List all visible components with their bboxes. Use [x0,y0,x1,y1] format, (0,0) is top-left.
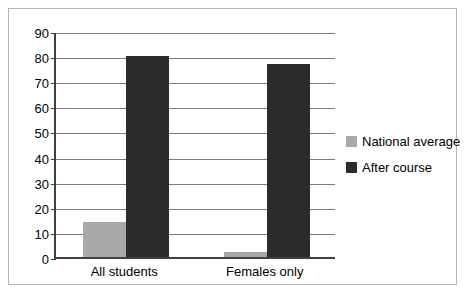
y-axis-tick-label: 80 [13,52,49,65]
x-axis-tick-label: All students [54,265,194,278]
legend-item[interactable]: National average [346,135,466,148]
legend-item-label: National average [362,135,460,148]
gridline [56,58,335,59]
y-axis-tick-label: 10 [13,227,49,240]
bar-after-course-females-only [267,64,310,257]
y-axis-tick-label: 20 [13,202,49,215]
y-axis-tick [51,209,56,210]
legend-item[interactable]: After course [346,161,466,174]
gridline [56,33,335,34]
y-axis-tick [51,133,56,134]
y-axis-tick-label: 60 [13,102,49,115]
y-axis-tick-label: 70 [13,77,49,90]
chart-outer-frame: 0102030405060708090 All studentsFemales … [8,8,457,285]
plot-area [54,33,335,259]
y-axis-tick [51,184,56,185]
y-axis-tick-label: 0 [13,253,49,266]
y-axis-tick [51,159,56,160]
y-axis-tick-label: 30 [13,177,49,190]
y-axis-tick [51,234,56,235]
bar-after-course-all-students [126,56,169,257]
y-axis-tick [51,108,56,109]
legend-item-label: After course [362,161,432,174]
y-axis-tick-label: 40 [13,152,49,165]
y-axis-tick-label: 50 [13,127,49,140]
y-axis-tick [51,58,56,59]
y-axis-tick [51,83,56,84]
y-axis-tick [51,33,56,34]
bar-national-average-all-students [83,222,126,257]
bar-chart-figure: 0102030405060708090 All studentsFemales … [0,0,467,296]
x-axis-tick-label: Females only [195,265,335,278]
y-axis-tick [51,259,56,260]
y-axis-tick-labels: 0102030405060708090 [9,33,49,259]
y-axis-tick-label: 90 [13,27,49,40]
bar-national-average-females-only [224,252,267,257]
legend-swatch-icon [346,162,357,173]
legend-swatch-icon [346,136,357,147]
chart-legend: National averageAfter course [346,135,466,187]
